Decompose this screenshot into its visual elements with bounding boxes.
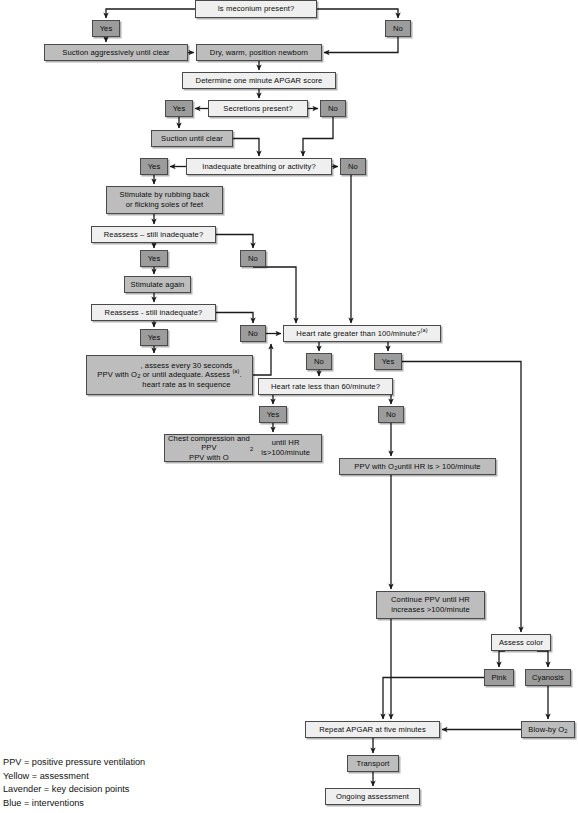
legend-line-ppv: PPV = positive pressure ventilation (3, 756, 145, 770)
node-re2-no: No (240, 325, 266, 342)
node-re2-yes: Yes (140, 329, 168, 346)
node-ppv-assess: PPV with O2, assess every 30 secondsor u… (86, 355, 253, 395)
node-reassess1: Reassess – still inadequate? (91, 226, 216, 243)
legend-line-yellow: Yellow = assessment (3, 770, 145, 784)
flowchart-connectors (0, 0, 578, 813)
node-hr100-no: No (306, 353, 332, 370)
node-stimulate: Stimulate by rubbing backor flicking sol… (106, 186, 223, 214)
node-cyanosis: Cyanosis (525, 669, 571, 686)
node-stim-again: Stimulate again (124, 276, 191, 293)
node-meconium: Is meconium present? (195, 0, 317, 18)
node-hr100-yes: Yes (374, 353, 402, 370)
node-pink: Pink (484, 669, 514, 686)
node-continue-ppv: Continue PPV until HRincreases >100/minu… (376, 591, 485, 619)
node-hr60-yes: Yes (259, 406, 287, 423)
node-apgar-one: Determine one minute APGAR score (182, 72, 336, 89)
node-secretions: Secretions present? (208, 100, 308, 117)
node-suction-clear: Suction until clear (151, 130, 233, 147)
node-ongoing: Ongoing assessment (325, 788, 420, 805)
node-re1-no: No (240, 250, 266, 267)
node-re1-yes: Yes (140, 250, 168, 267)
node-mec-no: No (385, 20, 411, 37)
node-hr60: Heart rate less than 60/minute? (258, 378, 393, 395)
legend: PPV = positive pressure ventilation Yell… (3, 756, 145, 810)
node-inadequate: Inadequate breathing or activity? (186, 158, 332, 175)
node-hr60-no: No (378, 406, 404, 423)
node-blowby: Blow-by O2 (521, 721, 575, 738)
node-mec-yes: Yes (92, 20, 120, 37)
legend-line-lavender: Lavender = key decision points (3, 783, 145, 797)
node-repeat-apgar: Repeat APGAR at five minutes (305, 721, 440, 738)
node-sec-yes: Yes (165, 100, 193, 117)
node-reassess2: Reassess - still inadequate? (91, 304, 216, 321)
node-suction-aggr: Suction aggressively until clear (44, 44, 188, 61)
flowchart-canvas: Is meconium present?YesNoSuction aggress… (0, 0, 578, 813)
node-assess-color: Assess color (491, 634, 551, 651)
node-sec-no: No (320, 100, 346, 117)
node-hr100: Heart rate greater than 100/minute?(a) (283, 325, 441, 342)
node-inad-no: No (340, 158, 366, 175)
node-transport: Transport (347, 755, 399, 772)
node-ppv-until: PPV with O2 until HR is > 100/minute (339, 458, 496, 475)
node-chest-comp: Chest compression and PPVPPV with O2 unt… (164, 434, 322, 462)
node-dry-warm: Dry, warm, position newborn (196, 44, 322, 61)
legend-line-blue: Blue = interventions (3, 797, 145, 811)
node-inad-yes: Yes (140, 158, 168, 175)
